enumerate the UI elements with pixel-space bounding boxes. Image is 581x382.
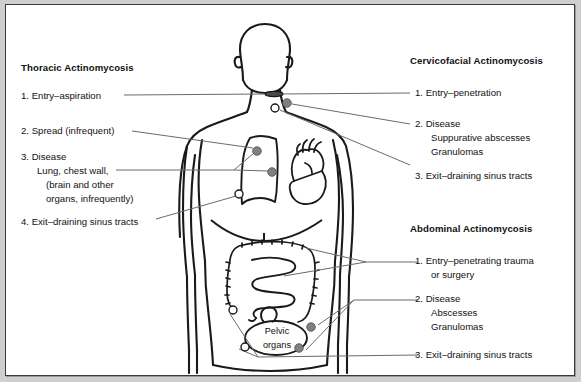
figure-panel: Thoracic Actinomycosis 1. Entry–aspirati… xyxy=(5,4,575,376)
leader-cervico-entry xyxy=(280,93,410,94)
leader-thoracic-entry xyxy=(124,94,268,95)
pelvic-organs-label-line1: Pelvic xyxy=(258,327,296,336)
exit-circle-chest xyxy=(235,190,243,198)
pelvic-organs-label-line2: organs xyxy=(256,341,298,350)
abdominal-item-1: 1. Entry–penetrating trauma xyxy=(415,256,534,266)
exit-circle-neck xyxy=(271,104,279,112)
leader-abdominal-entry-b xyxy=(284,262,366,276)
thoracic-item-3-line4: organs, infrequently) xyxy=(46,194,133,204)
cervicofacial-item-2: 2. Disease xyxy=(415,119,460,129)
cervicofacial-item-2-line3: Granulomas xyxy=(431,147,483,157)
thoracic-item-3-line2: Lung, chest wall, xyxy=(37,166,108,176)
leader-thoracic-exit xyxy=(156,196,236,219)
abdominal-item-1-line2: or surgery xyxy=(431,270,474,280)
leader-lines xyxy=(116,93,418,357)
cervicofacial-item-2-line2: Suppurative abscesses xyxy=(431,133,530,143)
heart-outline xyxy=(290,139,326,204)
diaphragm-line xyxy=(211,220,322,241)
abdominal-item-2-line3: Granulomas xyxy=(431,322,483,332)
exit-circle-abdomen-upper xyxy=(229,306,237,314)
cervicofacial-item-3: 3. Exit–draining sinus tracts xyxy=(415,171,532,181)
exit-circle-abdomen-lower xyxy=(241,343,249,351)
abdominal-item-3: 3. Exit–draining sinus tracts xyxy=(415,350,532,360)
abdominal-item-2: 2. Disease xyxy=(415,294,460,304)
thoracic-heading: Thoracic Actinomycosis xyxy=(21,63,134,73)
large-intestine xyxy=(225,240,319,322)
disease-dot-chest-wall xyxy=(253,147,262,156)
abdominal-item-2-line2: Abscesses xyxy=(431,308,477,318)
disease-dot-lung xyxy=(268,168,277,177)
thoracic-item-3-line3: (brain and other xyxy=(46,180,114,190)
thoracic-item-1: 1. Entry–aspiration xyxy=(21,91,101,101)
leader-thoracic-spread xyxy=(132,131,253,148)
disease-dot-neck xyxy=(283,99,292,108)
leader-cervico-exit xyxy=(280,110,410,165)
entry-site-marker-neck xyxy=(265,91,283,96)
cervicofacial-heading: Cervicofacial Actinomycosis xyxy=(410,56,543,66)
cervicofacial-item-1: 1. Entry–penetration xyxy=(415,88,501,98)
thoracic-item-2: 2. Spread (infrequent) xyxy=(21,126,114,136)
thoracic-item-4: 4. Exit–draining sinus tracts xyxy=(21,217,138,227)
figure-root: Thoracic Actinomycosis 1. Entry–aspirati… xyxy=(0,0,581,382)
leader-abdominal-entry-a xyxy=(306,248,418,262)
thoracic-item-3: 3. Disease xyxy=(21,152,66,162)
abdominal-heading: Abdominal Actinomycosis xyxy=(410,224,532,234)
disease-dot-pelvis-right xyxy=(307,323,316,332)
sigmoid-hook xyxy=(249,318,256,321)
